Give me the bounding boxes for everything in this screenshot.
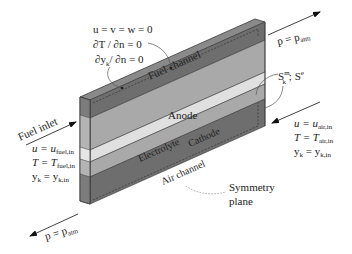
- fuel-inlet: Fuel inlet u = ufuel,in T = Tfuel,in yk …: [16, 115, 76, 184]
- air-inlet-temperature: T = Tair,in: [294, 131, 334, 145]
- symmetry-leader: [186, 186, 226, 194]
- label-anode: Anode: [168, 109, 197, 121]
- front-air-channel: [80, 174, 90, 204]
- fuel-inlet-species: yk = yk,in: [32, 170, 69, 184]
- symmetry-label-line1: Symmetry: [229, 181, 275, 193]
- source-leader-2: [265, 86, 283, 108]
- outlet-top: p = patm: [268, 12, 320, 49]
- fuel-inlet-temperature: T = Tfuel,in: [32, 156, 76, 170]
- front-anode: [80, 115, 90, 150]
- outlet-top-label: p = patm: [276, 28, 312, 49]
- fuel-inlet-velocity: u = ufuel,in: [32, 142, 75, 156]
- wall-bc-species: ∂yk/ ∂n = 0: [95, 53, 144, 68]
- symmetry-plane: Symmetry plane: [186, 181, 275, 207]
- symmetry-label-line2: plane: [229, 195, 253, 207]
- air-inlet: u = uair,in T = Tair,in yk = yk,in: [272, 102, 334, 159]
- cell-schematic: Fuel channel Anode Electrolyte Cathode A…: [0, 0, 352, 254]
- diagram-canvas: Fuel channel Anode Electrolyte Cathode A…: [0, 0, 352, 254]
- wall-bc-temperature: ∂T / ∂n = 0: [93, 38, 142, 50]
- outlet-bottom: p = patm: [30, 214, 80, 244]
- wall-bc-velocity: u = v = w = 0: [93, 23, 153, 35]
- air-inlet-species: yk = yk,in: [294, 145, 331, 159]
- source-terms-label: Smk ; Se: [278, 69, 304, 86]
- air-inlet-velocity: u = uair,in: [294, 117, 333, 131]
- outlet-bottom-label: p = patm: [43, 221, 79, 244]
- fuel-inlet-title: Fuel inlet: [16, 115, 59, 143]
- front-fuel-channel: [80, 97, 90, 118]
